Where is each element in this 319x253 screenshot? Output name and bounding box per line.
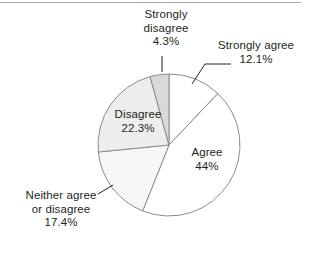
slice-label-strongly-agree-value: 12.1% — [196, 53, 316, 67]
slice-label-disagree: Disagree 22.3% — [101, 108, 175, 135]
pie-chart-figure: Strongly disagree 4.3% Strongly agree 12… — [0, 0, 319, 253]
slice-label-neither-agree-or-disagree: Neither agree or disagree 17.4% — [4, 189, 118, 230]
slice-label-agree: Agree 44% — [176, 146, 238, 173]
slice-label-strongly-disagree-line1: Strongly — [112, 8, 220, 22]
slice-label-agree-value: 44% — [176, 160, 238, 174]
slice-label-neither-line1: Neither agree — [4, 189, 118, 203]
slice-label-neither-line2: or disagree — [4, 203, 118, 217]
slice-label-agree-line1: Agree — [176, 146, 238, 160]
slice-label-disagree-line1: Disagree — [101, 108, 175, 122]
pie-slices — [98, 74, 240, 216]
slice-label-disagree-value: 22.3% — [101, 122, 175, 136]
slice-label-strongly-agree: Strongly agree 12.1% — [196, 39, 316, 66]
slice-label-strongly-agree-line1: Strongly agree — [196, 39, 316, 53]
slice-label-strongly-disagree-line2: disagree — [112, 22, 220, 36]
slice-label-neither-value: 17.4% — [4, 216, 118, 230]
